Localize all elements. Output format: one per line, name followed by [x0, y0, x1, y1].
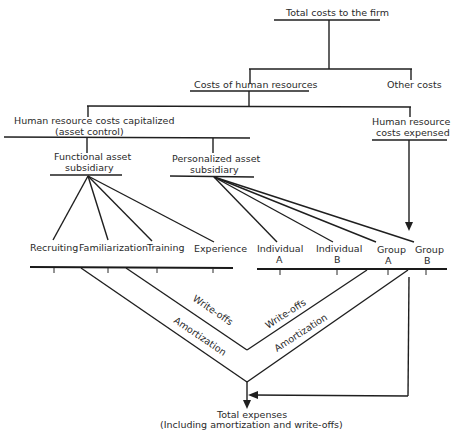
edge-experience — [88, 176, 214, 242]
node-hr-capitalized-sub: (asset control) — [55, 126, 124, 137]
underline-personalized — [170, 176, 254, 177]
edge-writeoffs-left — [126, 268, 247, 350]
label-writeoffs-left: Write-offs — [191, 293, 235, 328]
node-hr-expensed: Human resource — [372, 116, 451, 127]
arrow-down-icon — [243, 400, 251, 409]
account-familiarization: Familiarization — [79, 242, 148, 253]
node-hr-capitalized: Human resource costs capitalized — [14, 115, 174, 126]
account-individual-a-sub: A — [276, 254, 283, 265]
edge-group-a — [214, 177, 376, 242]
functional-ledger-line — [30, 267, 233, 268]
edge-recruiting — [53, 176, 88, 240]
node-hr-expensed-sub: costs expensed — [376, 127, 450, 138]
node-functional: Functional asset — [54, 151, 131, 162]
account-individual-a: Individual — [257, 243, 303, 254]
account-training: Training — [146, 242, 185, 253]
hr-accounting-flow-diagram: Total costs to the firm Costs of human r… — [0, 0, 457, 431]
node-personalized-sub: subsidiary — [190, 164, 239, 175]
arrow-left-icon — [248, 391, 258, 399]
edge-amortization-left — [81, 268, 247, 382]
account-group-b-sub: B — [424, 255, 431, 266]
node-functional-sub: subsidiary — [65, 162, 114, 173]
node-other-costs: Other costs — [387, 79, 442, 90]
account-group-a: Group — [377, 244, 406, 255]
connector-expensed-down — [408, 277, 409, 396]
node-hr-costs: Costs of human resources — [194, 79, 318, 90]
arrow-down-icon — [405, 222, 413, 231]
account-experience: Experience — [194, 243, 247, 254]
account-individual-b: Individual — [316, 243, 362, 254]
account-group-a-sub: A — [385, 255, 392, 266]
connector-expensed-left — [252, 395, 408, 396]
account-recruiting: Recruiting — [30, 242, 78, 253]
node-personalized: Personalized asset — [172, 153, 260, 164]
account-individual-b-sub: B — [334, 254, 341, 265]
node-total-expenses-sub: (Including amortization and write-offs) — [160, 419, 343, 430]
account-group-b: Group — [415, 244, 444, 255]
branch-line — [87, 106, 411, 107]
edge-writeoffs-right — [247, 270, 367, 350]
node-total-costs: Total costs to the firm — [285, 7, 389, 18]
underline-hr-capitalized — [4, 137, 250, 138]
